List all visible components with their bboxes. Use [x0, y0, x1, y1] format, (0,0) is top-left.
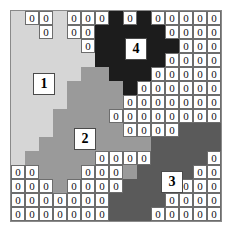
zero-cell-marker: 0: [165, 81, 179, 95]
zero-cell-marker: 0: [109, 109, 123, 123]
zero-cell-marker: 0: [25, 165, 39, 179]
grid-cell: [67, 95, 81, 109]
grid-cell: 0: [165, 25, 179, 39]
grid-cell: [39, 109, 53, 123]
grid-cell: 0: [207, 207, 221, 221]
grid-cell: 0: [11, 165, 25, 179]
grid-cell: 0: [39, 25, 53, 39]
grid-cell: 0: [165, 95, 179, 109]
zero-cell-marker: 0: [25, 207, 39, 221]
zero-cell-marker: 0: [151, 11, 165, 25]
zero-cell-marker: 0: [109, 179, 123, 193]
zero-cell-marker: 0: [95, 193, 109, 207]
grid-cell: [109, 207, 123, 221]
zero-cell-marker: 0: [207, 193, 221, 207]
zero-cell-marker: 0: [95, 151, 109, 165]
grid-cell: 0: [25, 11, 39, 25]
zero-cell-marker: 0: [81, 39, 95, 53]
grid-cell: [81, 109, 95, 123]
grid-cell: 0: [67, 11, 81, 25]
zero-cell-marker: 0: [137, 151, 151, 165]
grid-cell: [53, 81, 67, 95]
grid-cell: [11, 137, 25, 151]
grid-cell: 0: [165, 109, 179, 123]
zero-cell-marker: 0: [179, 25, 193, 39]
zero-cell-marker: 0: [207, 207, 221, 221]
zero-cell-marker: 0: [207, 11, 221, 25]
zero-cell-marker: 0: [67, 193, 81, 207]
zero-cell-marker: 0: [39, 179, 53, 193]
zero-cell-marker: 0: [123, 109, 137, 123]
grid-cell: [25, 123, 39, 137]
zero-cell-marker: 0: [165, 95, 179, 109]
grid-cell: [53, 67, 67, 81]
grid-cell: [123, 207, 137, 221]
grid-cell: [53, 151, 67, 165]
grid-cell: 0: [179, 11, 193, 25]
grid-cell: 0: [81, 25, 95, 39]
grid-cell: 0: [137, 95, 151, 109]
grid-cell: 0: [207, 193, 221, 207]
zero-cell-marker: 0: [151, 81, 165, 95]
zero-cell-marker: 0: [165, 193, 179, 207]
grid-cell: [137, 137, 151, 151]
grid-cell: [179, 137, 193, 151]
zero-cell-marker: 0: [67, 25, 81, 39]
grid-cell: 0: [39, 179, 53, 193]
grid-cell: 0: [81, 165, 95, 179]
grid-cell: [11, 151, 25, 165]
grid-cell: [81, 53, 95, 67]
grid-cell: 0: [165, 207, 179, 221]
grid-cell: 0: [165, 11, 179, 25]
grid-cell: [95, 95, 109, 109]
grid-cell: [137, 193, 151, 207]
grid-cell: [137, 207, 151, 221]
grid-cell: [25, 151, 39, 165]
zero-cell-marker: 0: [11, 193, 25, 207]
zero-cell-marker: 0: [165, 109, 179, 123]
grid-cell: [137, 179, 151, 193]
zero-cell-marker: 0: [109, 165, 123, 179]
grid-cell: 0: [109, 165, 123, 179]
grid-cell: 0: [165, 67, 179, 81]
region-label-4: 4: [125, 38, 147, 60]
zero-cell-marker: 0: [137, 123, 151, 137]
zero-cell-marker: 0: [151, 123, 165, 137]
zero-cell-marker: 0: [193, 81, 207, 95]
grid-cell: 0: [95, 193, 109, 207]
zero-cell-marker: 0: [81, 179, 95, 193]
zero-cell-marker: 0: [53, 207, 67, 221]
zero-cell-marker: 0: [193, 53, 207, 67]
zero-cell-marker: 0: [123, 151, 137, 165]
grid-cell: 0: [165, 123, 179, 137]
zero-cell-marker: 0: [123, 123, 137, 137]
grid-cell: [151, 53, 165, 67]
zero-cell-marker: 0: [137, 81, 151, 95]
zero-cell-marker: 0: [207, 67, 221, 81]
zero-cell-marker: 0: [95, 179, 109, 193]
grid-cell: 0: [193, 207, 207, 221]
grid-cell: [165, 39, 179, 53]
grid-cell: [95, 39, 109, 53]
zero-cell-marker: 0: [179, 95, 193, 109]
grid-cell: [109, 53, 123, 67]
zero-cell-marker: 0: [193, 109, 207, 123]
grid-cell: [53, 165, 67, 179]
grid-cell: [53, 11, 67, 25]
figure-canvas: 0000000000000000000000000000000000000000…: [0, 0, 232, 230]
zero-cell-marker: 0: [81, 11, 95, 25]
zero-cell-marker: 0: [25, 193, 39, 207]
grid-cell: 0: [207, 67, 221, 81]
grid-cell: 0: [81, 193, 95, 207]
grid-cell: 0: [25, 179, 39, 193]
grid-cell: [165, 151, 179, 165]
grid-cell: 0: [179, 81, 193, 95]
grid-cell: [39, 165, 53, 179]
grid-cell: 0: [109, 151, 123, 165]
grid-cell: 0: [193, 67, 207, 81]
grid-cell: 0: [67, 193, 81, 207]
zero-cell-marker: 0: [11, 179, 25, 193]
grid-cell: [109, 81, 123, 95]
region-grid: 0000000000000000000000000000000000000000…: [10, 10, 222, 222]
grid-cell: [81, 67, 95, 81]
